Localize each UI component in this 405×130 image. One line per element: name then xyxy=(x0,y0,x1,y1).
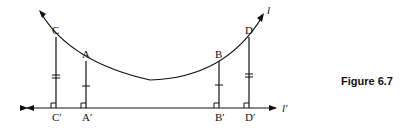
right-angle-D-prime-icon xyxy=(244,103,249,108)
right-angle-A-prime-icon xyxy=(81,103,86,108)
right-angle-C-prime-icon xyxy=(51,103,56,108)
label-A: A xyxy=(82,48,90,60)
curve-arrow-right-icon xyxy=(257,13,264,22)
diagram-canvas: C A B D C′ A′ B′ D′ l l′ xyxy=(0,0,405,130)
right-angle-B-prime-icon xyxy=(214,103,219,108)
label-curve-l: l xyxy=(267,4,270,16)
label-C-prime: C′ xyxy=(52,111,62,123)
label-D-prime: D′ xyxy=(245,111,255,123)
curve-l xyxy=(41,13,262,80)
label-D: D xyxy=(245,24,253,36)
figure-caption: Figure 6.7 xyxy=(341,75,393,87)
label-B: B xyxy=(215,48,222,60)
label-B-prime: B′ xyxy=(215,111,225,123)
label-A-prime: A′ xyxy=(82,111,92,123)
label-line-l-prime: l′ xyxy=(282,102,288,114)
curve-arrow-left-icon xyxy=(39,10,46,18)
label-C: C xyxy=(52,24,59,36)
